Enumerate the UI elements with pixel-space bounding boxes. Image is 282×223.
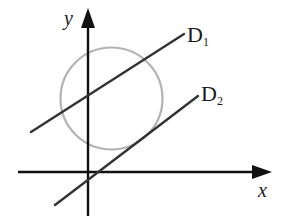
line-d1-label: D1: [187, 24, 209, 48]
x-axis-label: x: [258, 180, 267, 200]
y-axis-label: y: [64, 8, 73, 28]
geometry-diagram: [0, 0, 282, 223]
x-axis-arrow-icon: [252, 165, 272, 179]
line-d1-subscript: 1: [203, 35, 209, 49]
line-d2-letter: D: [201, 81, 217, 106]
x-axis: [18, 165, 272, 179]
line-d2-subscript: 2: [217, 94, 223, 108]
line-d2-label: D2: [201, 83, 223, 107]
y-axis-arrow-icon: [81, 8, 95, 28]
line-d2: [55, 96, 198, 205]
line-d1-letter: D: [187, 22, 203, 47]
